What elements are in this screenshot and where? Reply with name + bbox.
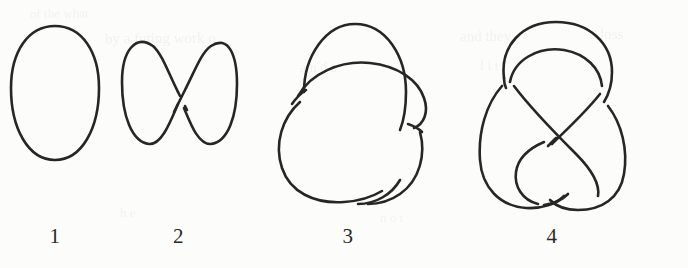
knot-diagram-3: 3 (248, 8, 448, 260)
trefoil-knot-drawing (248, 8, 448, 223)
knot-label-1: 1 (0, 226, 110, 247)
unknot-drawing (0, 8, 110, 223)
knot-diagram-4: 4 (452, 8, 652, 260)
knot-diagram-row: 1 2 (0, 0, 688, 268)
knot-figure-plate: of the what by a futing work o and they … (0, 0, 688, 268)
knot-label-2: 2 (116, 226, 241, 247)
figure-eight-knot-drawing (452, 8, 652, 223)
knot-label-4: 4 (452, 226, 652, 247)
knot-diagram-1: 1 (0, 8, 110, 260)
knot-label-3: 3 (248, 226, 448, 247)
knot-diagram-2: 2 (116, 8, 241, 260)
twisted-unknot-drawing (116, 8, 241, 223)
